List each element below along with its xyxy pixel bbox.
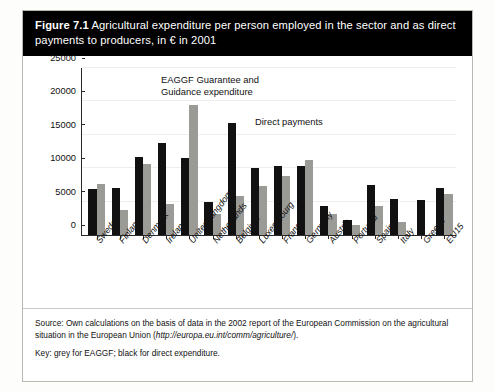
bar-group [317,68,340,235]
y-axis-tick-label: 0 [71,220,82,230]
bar-eaggf [189,105,197,235]
bar-group [247,68,270,235]
x-axis-label-slot: Austria [318,237,341,305]
bar-group [108,68,131,235]
x-axis-labels: SwedenFinlandDenmarkIrelandUnited Kingdo… [81,237,458,305]
bar-group [340,68,363,235]
x-axis-label-slot: United Kingdom [178,237,201,305]
figure-footer: Source: Own calculations on the basis of… [23,309,472,368]
bar-series-container [82,68,456,235]
bar-group [155,68,178,235]
figure-container: Figure 7.1 Agricultural expenditure per … [22,10,473,382]
x-axis-label-slot: Spain [365,237,388,305]
bar-group [410,68,433,235]
bar-group [294,68,317,235]
source-text-part2: ). [293,330,298,340]
source-url: http://europa.eu.int/comm/agriculture/ [156,330,293,340]
x-axis-label-slot: Belgium [224,237,247,305]
x-axis-label-slot: Portugal [341,237,364,305]
figure-number: Figure 7.1 [35,19,89,31]
bar-group [363,68,386,235]
chart-panel: EAGGF Guarantee and Guidance expenditure… [23,56,472,309]
bar-group [386,68,409,235]
x-axis-label-slot: Luxembourg [248,237,271,305]
y-axis-tick-label: 5000 [55,187,82,197]
x-axis-label-slot: France [271,237,294,305]
bar-group [85,68,108,235]
bar-eaggf [305,160,313,235]
page-title: Agricultural expenditure per person empl… [35,19,456,46]
bar-group [433,68,456,235]
x-axis-label-slot: EU15 [435,237,458,305]
y-axis-tick-label: 25000 [50,53,82,63]
bar-group [178,68,201,235]
x-axis-label-slot: Germany [294,237,317,305]
x-axis-label-slot: Sweden [84,237,107,305]
x-axis-label-slot: Greece [411,237,434,305]
bar-group [131,68,154,235]
figure-title-bar: Figure 7.1 Agricultural expenditure per … [23,11,472,56]
y-axis-tick-label: 20000 [50,86,82,96]
y-axis-tick-label: 15000 [50,120,82,130]
bar-direct-payments [88,189,96,235]
bar-direct-payments [417,200,425,235]
x-axis-label-slot: Denmark [131,237,154,305]
x-axis-label-slot: Ireland [154,237,177,305]
x-axis-label-slot: Netherlands [201,237,224,305]
y-axis-tick-mark [82,58,85,59]
plot-area: 0500010000150002000025000 [81,68,456,236]
x-axis-label-slot: Finland [107,237,130,305]
key-note: Key: grey for EAGGF; black for direct ex… [35,348,460,360]
source-note: Source: Own calculations on the basis of… [35,318,460,341]
y-axis-tick-label: 10000 [50,153,82,163]
x-axis-label-slot: Italy [388,237,411,305]
